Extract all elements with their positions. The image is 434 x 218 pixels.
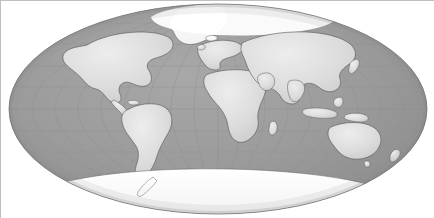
world-map-figure: World Map Mollweide (elliptical equal-ar… (0, 0, 434, 218)
land-caribbean (128, 100, 139, 105)
land-tasmania (364, 161, 370, 167)
land-iceland (206, 36, 217, 42)
world-map-canvas[interactable] (1, 1, 434, 218)
